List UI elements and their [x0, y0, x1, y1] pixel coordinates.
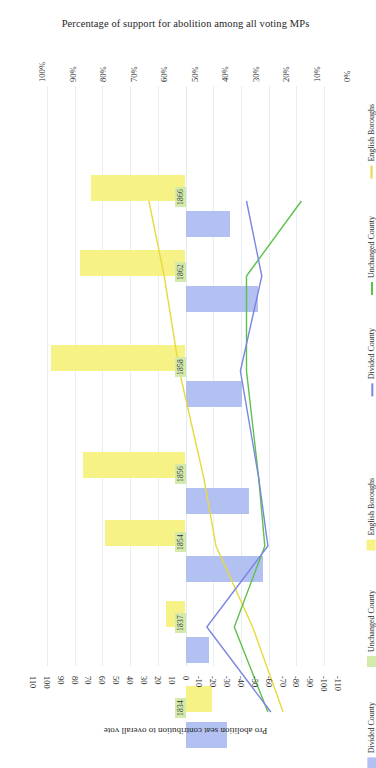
- year-label-1858: 1858: [175, 357, 186, 377]
- contribution-tick-90: 90: [56, 676, 65, 684]
- pct-tick-0: 0%: [342, 71, 352, 82]
- legend-item-bar-unchanged-county[interactable]: Unchanged County: [367, 590, 376, 667]
- contribution-tick-100: 100: [42, 676, 51, 689]
- pct-tick-80: 80%: [98, 66, 108, 82]
- year-label-1856: 1856: [175, 464, 186, 484]
- pct-tick-30: 30%: [251, 66, 261, 82]
- contribution-tick-70: 70: [83, 676, 92, 684]
- contribution-tick-30: 30: [139, 676, 148, 684]
- legend-swatch-icon: [371, 383, 373, 396]
- legend-label: Divided County: [367, 702, 376, 753]
- legend-item-bar-english-boroughs[interactable]: English Boroughs: [367, 478, 376, 551]
- year-label-1854: 1854: [175, 532, 186, 552]
- pct-tick-100: 100%: [37, 62, 47, 82]
- year-label-1866: 1866: [175, 187, 186, 207]
- pct-tick-90: 90%: [68, 66, 78, 82]
- contribution-tick--80: -80: [291, 676, 300, 687]
- contribution-tick--110: -110: [333, 676, 342, 691]
- legend-label: Divided County: [367, 328, 376, 379]
- contribution-tick--100: -100: [319, 676, 328, 691]
- contribution-tick--90: -90: [305, 676, 314, 687]
- legend-swatch-icon: [371, 166, 373, 179]
- legend-swatch-icon: [367, 656, 376, 667]
- line-divided-county: [207, 201, 271, 712]
- legend-swatch-icon: [367, 540, 376, 551]
- legend-item-bar-divided-county[interactable]: Divided County: [367, 702, 376, 768]
- contribution-tick--40: -40: [236, 676, 245, 687]
- axis-title: Pro abolition seat contribution to overa…: [0, 726, 371, 736]
- legend-item-line-english-boroughs[interactable]: English Boroughs: [367, 104, 376, 179]
- chart-legend: English BoroughsUnchanged CountyDivided …: [335, 86, 369, 666]
- chart-title: Percentage of support for abolition amon…: [0, 18, 371, 29]
- line-unchanged-county: [234, 201, 301, 712]
- pct-tick-50: 50%: [190, 66, 200, 82]
- contribution-tick-110: 110: [28, 676, 37, 688]
- year-label-1837: 1837: [175, 613, 186, 633]
- legend-label: Unchanged County: [367, 216, 376, 278]
- legend-swatch-icon: [371, 282, 373, 295]
- contribution-tick--70: -70: [278, 676, 287, 687]
- pct-tick-20: 20%: [281, 66, 291, 82]
- line-english-boroughs: [149, 201, 283, 712]
- contribution-tick-80: 80: [70, 676, 79, 684]
- contribution-tick-20: 20: [153, 676, 162, 684]
- pct-tick-40: 40%: [220, 66, 230, 82]
- plot-area: 1866186218581856185418371834: [0, 86, 371, 666]
- legend-item-line-divided-county[interactable]: Divided County: [367, 328, 376, 396]
- legend-label: Unchanged County: [367, 590, 376, 652]
- percentage-axis: 100%90%80%70%60%50%40%30%20%10%0%: [0, 40, 371, 86]
- contribution-tick--10: -10: [194, 676, 203, 687]
- pct-tick-70: 70%: [129, 66, 139, 82]
- legend-label: English Boroughs: [367, 478, 376, 536]
- contribution-tick--50: -50: [250, 676, 259, 687]
- contribution-axis: Pro abolition seat contribution to overa…: [0, 666, 371, 759]
- legend-swatch-icon: [367, 757, 376, 768]
- contribution-tick--30: -30: [222, 676, 231, 687]
- pct-tick-60: 60%: [159, 66, 169, 82]
- contribution-tick-40: 40: [125, 676, 134, 684]
- contribution-tick-10: 10: [167, 676, 176, 684]
- contribution-tick-0: 0: [181, 676, 190, 680]
- legend-label: English Boroughs: [367, 104, 376, 162]
- contribution-tick-60: 60: [97, 676, 106, 684]
- contribution-tick--20: -20: [208, 676, 217, 687]
- pct-tick-10: 10%: [312, 66, 322, 82]
- contribution-tick--60: -60: [264, 676, 273, 687]
- contribution-tick-50: 50: [111, 676, 120, 684]
- legend-item-line-unchanged-county[interactable]: Unchanged County: [367, 216, 376, 295]
- year-label-1862: 1862: [175, 262, 186, 282]
